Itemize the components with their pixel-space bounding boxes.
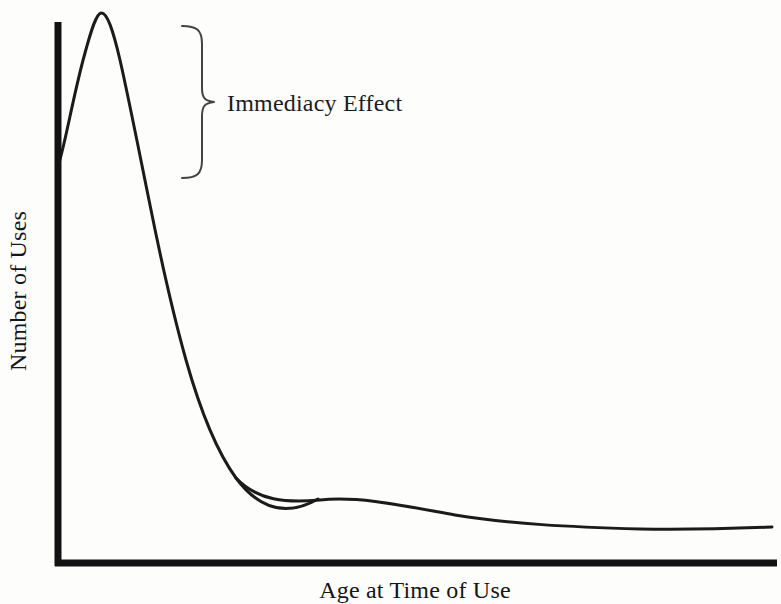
immediacy-effect-label: Immediacy Effect	[227, 90, 402, 116]
chart-figure: Immediacy Effect Age at Time of Use Numb…	[0, 0, 781, 604]
x-axis-label: Age at Time of Use	[319, 577, 511, 603]
usage-curve-tail	[236, 478, 772, 529]
chart-svg: Immediacy Effect Age at Time of Use Numb…	[0, 0, 781, 604]
immediacy-brace-icon	[182, 26, 214, 178]
y-axis-label: Number of Uses	[5, 211, 31, 371]
usage-curve	[59, 13, 318, 508]
